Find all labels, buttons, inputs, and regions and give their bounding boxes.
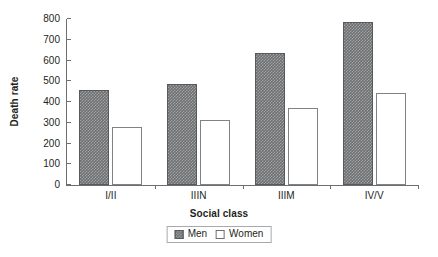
bar-men-iv-v <box>343 22 373 185</box>
bar-women-iiin <box>200 120 230 185</box>
x-axis-category-label: IIIM <box>278 191 295 201</box>
bar-women-iv-v <box>376 93 406 185</box>
bars-layer <box>67 19 418 185</box>
x-axis-category-label: IIIN <box>191 191 207 201</box>
y-tick-label: 0 <box>54 180 67 190</box>
legend-label: Men <box>188 229 207 239</box>
y-tick-label: 400 <box>43 97 67 107</box>
x-axis-title: Social class <box>0 208 438 219</box>
outlined-swatch <box>216 230 225 239</box>
y-tick-label: 200 <box>43 139 67 149</box>
y-tick-label: 600 <box>43 56 67 66</box>
x-axis-category-label: IV/V <box>365 191 384 201</box>
legend-label: Women <box>229 229 263 239</box>
x-tick-mark <box>243 185 244 189</box>
y-tick-label: 700 <box>43 35 67 45</box>
bar-men-i-ii <box>79 90 109 185</box>
chart-legend: MenWomen <box>167 226 272 243</box>
bar-women-iiim <box>288 108 318 185</box>
y-tick-label: 800 <box>43 14 67 24</box>
bar-men-iiim <box>255 53 285 185</box>
y-tick-label: 500 <box>43 76 67 86</box>
x-tick-mark <box>418 185 419 189</box>
x-tick-mark <box>155 185 156 189</box>
x-tick-mark <box>330 185 331 189</box>
legend-entry-women: Women <box>216 229 263 239</box>
y-tick-label: 100 <box>43 159 67 169</box>
bar-chart: Death rate 0100200300400500600700800 I/I… <box>0 0 438 257</box>
legend-entry-men: Men <box>175 229 207 239</box>
y-tick-label: 300 <box>43 118 67 128</box>
x-axis-category-label: I/II <box>105 191 116 201</box>
plot-area: 0100200300400500600700800 I/IIIIINIIIMIV… <box>66 19 418 186</box>
y-axis-title: Death rate <box>9 42 20 162</box>
bar-women-i-ii <box>112 127 142 185</box>
bar-men-iiin <box>167 84 197 185</box>
filled-swatch <box>175 230 184 239</box>
